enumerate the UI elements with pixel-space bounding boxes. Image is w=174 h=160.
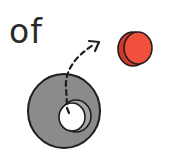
ring-icon: [28, 74, 100, 148]
red-disc-icon: [118, 32, 152, 66]
illustration-canvas: [0, 0, 174, 160]
